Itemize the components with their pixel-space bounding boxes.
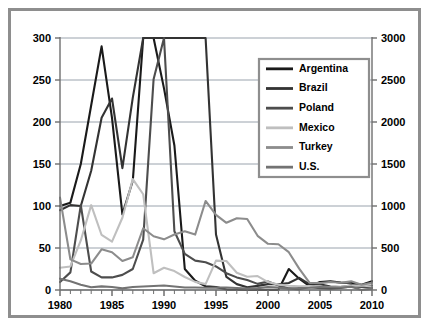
x-axis-tick-label: 1985 xyxy=(100,299,124,311)
y-axis-tick-label: 50 xyxy=(39,242,51,254)
chart-frame: 0501001502002503000500100015002000250030… xyxy=(8,8,421,318)
series-line-turkey xyxy=(60,198,372,285)
x-axis-tick-label: 1980 xyxy=(48,299,72,311)
y2-axis-tick-label: 1000 xyxy=(381,200,405,212)
y2-axis-tick-label: 2500 xyxy=(381,74,405,86)
y-axis-tick-label: 100 xyxy=(33,200,51,212)
legend-label-brazil: Brazil xyxy=(299,81,328,93)
legend-label-turkey: Turkey xyxy=(299,140,333,152)
x-axis-tick-label: 2005 xyxy=(308,299,332,311)
y2-axis-tick-label: 0 xyxy=(381,284,387,296)
legend-label-argentina: Argentina xyxy=(299,62,348,74)
legend-label-us: U.S. xyxy=(299,160,320,172)
x-axis-tick-label: 1995 xyxy=(204,299,228,311)
y-axis-tick-label: 200 xyxy=(33,116,51,128)
y2-axis-tick-label: 500 xyxy=(381,242,399,254)
y2-axis-tick-label: 1500 xyxy=(381,158,405,170)
y2-axis-tick-label: 2000 xyxy=(381,116,405,128)
line-chart: 0501001502002503000500100015002000250030… xyxy=(11,11,418,315)
chart-legend[interactable]: ArgentinaBrazilPolandMexicoTurkeyU.S. xyxy=(259,59,369,177)
legend-label-poland: Poland xyxy=(299,101,334,113)
y2-axis-tick-label: 3000 xyxy=(381,32,405,44)
chart-figure: 0501001502002503000500100015002000250030… xyxy=(0,0,429,334)
x-axis-tick-label: 1990 xyxy=(152,299,176,311)
x-axis-tick-label: 2010 xyxy=(360,299,384,311)
x-axis-tick-label: 2000 xyxy=(256,299,280,311)
y-axis-tick-label: 150 xyxy=(33,158,51,170)
y-axis-tick-label: 0 xyxy=(45,284,51,296)
legend-label-mexico: Mexico xyxy=(299,121,335,133)
y-axis-tick-label: 250 xyxy=(33,74,51,86)
y-axis-tick-label: 300 xyxy=(33,32,51,44)
